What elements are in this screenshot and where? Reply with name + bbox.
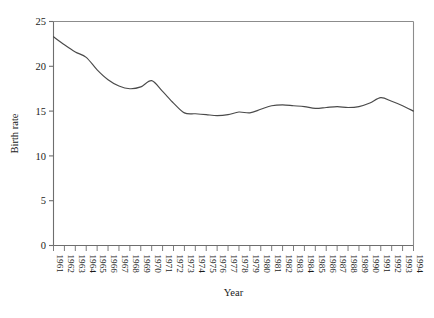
chart-canvas: 0510152025 19611962196319641965196619671… (0, 0, 434, 300)
x-tick-label-1976: 1976 (218, 255, 228, 274)
x-tick-label-1970: 1970 (153, 255, 163, 274)
x-tick-label-1978: 1978 (240, 255, 250, 274)
x-tick-label-1965: 1965 (98, 255, 108, 274)
x-tick-label-1992: 1992 (393, 255, 403, 274)
birth-rate-line-chart-figure: 0510152025 19611962196319641965196619671… (0, 0, 434, 318)
x-tick-label-1975: 1975 (208, 255, 218, 274)
y-axis-title: Birth rate (9, 113, 20, 153)
x-tick-label-1969: 1969 (142, 255, 152, 274)
birth-rate-series-line (54, 37, 414, 116)
y-axis-ticks (49, 22, 54, 246)
plot-frame (54, 22, 414, 246)
x-tick-label-1987: 1987 (338, 255, 348, 274)
x-tick-label-1986: 1986 (328, 255, 338, 274)
y-tick-label-20: 20 (36, 61, 47, 72)
x-tick-label-1989: 1989 (360, 255, 370, 274)
y-tick-label-15: 15 (36, 106, 47, 117)
y-tick-label-0: 0 (41, 240, 46, 251)
x-tick-label-1983: 1983 (295, 255, 305, 274)
x-axis-tick-labels: 1961196219631964196519661967196819691970… (55, 255, 425, 274)
x-tick-label-1977: 1977 (229, 255, 239, 274)
x-tick-label-1966: 1966 (109, 255, 119, 274)
x-tick-label-1964: 1964 (88, 255, 98, 274)
x-tick-label-1982: 1982 (284, 255, 294, 274)
x-tick-label-1990: 1990 (371, 255, 381, 274)
x-tick-label-1984: 1984 (306, 255, 316, 274)
x-tick-label-1985: 1985 (317, 255, 327, 274)
x-tick-label-1988: 1988 (349, 255, 359, 274)
x-tick-label-1961: 1961 (55, 255, 65, 274)
y-tick-label-25: 25 (36, 16, 47, 27)
x-tick-label-1971: 1971 (164, 255, 174, 274)
x-axis-ticks (54, 246, 414, 252)
x-tick-label-1963: 1963 (77, 255, 87, 274)
x-tick-label-1981: 1981 (273, 255, 283, 274)
y-tick-label-10: 10 (36, 151, 47, 162)
x-tick-label-1980: 1980 (262, 255, 272, 274)
x-tick-label-1993: 1993 (404, 255, 414, 274)
y-axis-tick-labels: 0510152025 (36, 16, 47, 251)
x-axis-title: Year (224, 287, 244, 298)
figure-caption-cropped (8, 311, 238, 318)
x-tick-label-1967: 1967 (120, 255, 130, 274)
x-tick-label-1991: 1991 (382, 255, 392, 274)
x-tick-label-1972: 1972 (175, 255, 185, 274)
x-tick-label-1974: 1974 (197, 255, 207, 274)
y-tick-label-5: 5 (41, 195, 46, 206)
x-tick-label-1994: 1994 (415, 255, 425, 274)
x-tick-label-1962: 1962 (66, 255, 76, 274)
x-tick-label-1979: 1979 (251, 255, 261, 274)
x-tick-label-1968: 1968 (131, 255, 141, 274)
x-tick-label-1973: 1973 (186, 255, 196, 274)
